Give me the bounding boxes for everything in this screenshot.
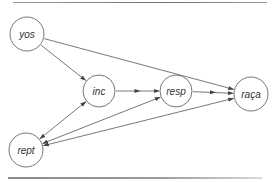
path-diagram: yosincrespraçarept [0,0,277,182]
node-label: inc [93,86,106,97]
node-inc: inc [83,75,115,107]
node-label: rept [17,145,35,156]
edge-yos-raca [44,39,233,90]
mid-arrow-icon [135,89,141,93]
node-yos: yos [10,17,44,51]
node-label: yos [18,29,35,40]
edge-yos-inc [41,45,86,80]
node-label: resp [166,86,186,97]
node-rept: rept [9,133,43,167]
node-raca: raça [234,77,268,111]
node-label: raça [241,89,261,100]
edge-inc-rept [40,102,86,139]
node-resp: resp [160,75,192,107]
mid-arrow-icon [210,90,216,94]
edges-group [40,39,234,146]
bottom-rule [8,177,262,179]
